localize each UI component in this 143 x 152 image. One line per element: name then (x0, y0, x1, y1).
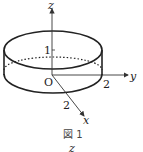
origin-label: O (44, 76, 53, 89)
next-figure-label: z (68, 142, 75, 152)
x-tick-label: 2 (63, 99, 70, 112)
cylinder-diagram: z y x O 1 2 2 図 1 z (0, 0, 143, 152)
z-axis-label: z (47, 0, 54, 12)
y-axis-label: y (129, 70, 137, 83)
figure-caption: 図 1 (63, 129, 83, 140)
z-tick-label: 1 (44, 44, 51, 57)
x-axis-label: x (83, 114, 90, 127)
y-tick-label: 2 (103, 78, 110, 91)
